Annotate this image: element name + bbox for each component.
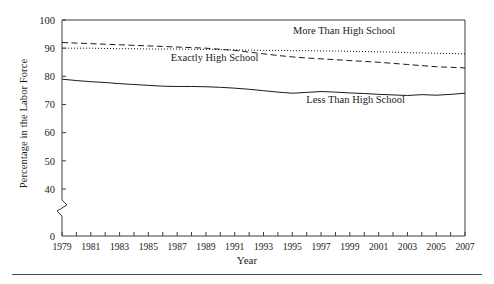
x-axis-tick-labels: 1979198119831985198719891991199319951997… <box>52 241 474 252</box>
series-label-less-than-high-school: Less Than High School <box>306 94 405 105</box>
x-tick-label: 1997 <box>311 241 330 252</box>
y-tick-label: 70 <box>45 99 56 110</box>
series-line-exactly-high-school <box>62 43 465 68</box>
x-tick-label: 1987 <box>168 241 187 252</box>
y-tick-label: 40 <box>45 184 56 195</box>
x-tick-label: 2007 <box>455 241 474 252</box>
y-tick-label: 60 <box>45 127 56 138</box>
y-tick-label: 50 <box>45 156 56 167</box>
x-axis-title: Year <box>0 254 494 266</box>
y-tick-label: 80 <box>45 71 56 82</box>
x-tick-label: 1985 <box>139 241 158 252</box>
figure-container: Percentage in the Labor Force 0405060708… <box>0 0 494 284</box>
x-tick-label: 1993 <box>254 241 273 252</box>
x-tick-label: 2005 <box>427 241 446 252</box>
line-chart-plot: 0405060708090100 19791981198319851987198… <box>0 0 494 284</box>
x-tick-label: 1981 <box>81 241 100 252</box>
footer-divider <box>12 274 482 275</box>
x-tick-label: 1991 <box>225 241 244 252</box>
x-tick-label: 1995 <box>283 241 302 252</box>
x-tick-label: 1999 <box>340 241 359 252</box>
axes <box>57 20 465 236</box>
series-label-exactly-high-school: Exactly High School <box>171 52 259 63</box>
y-axis-tick-labels: 0405060708090100 <box>39 15 55 242</box>
y-tick-label: 100 <box>39 15 55 26</box>
x-tick-label: 2001 <box>369 241 388 252</box>
x-tick-label: 1989 <box>196 241 215 252</box>
x-tick-label: 1979 <box>52 241 71 252</box>
x-tick-label: 1983 <box>110 241 129 252</box>
x-tick-label: 2003 <box>398 241 417 252</box>
y-axis-break-marker <box>57 200 67 216</box>
series-line-more-than-high-school <box>62 48 465 54</box>
data-series <box>62 43 465 96</box>
y-tick-label: 90 <box>45 43 56 54</box>
series-label-more-than-high-school: More Than High School <box>293 25 395 36</box>
